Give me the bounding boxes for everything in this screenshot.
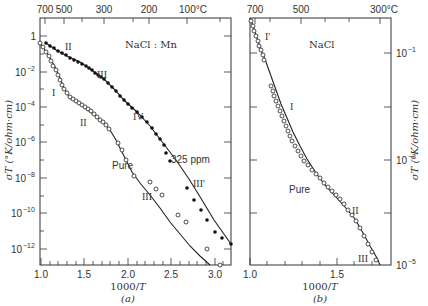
x-tick-label: 1.5	[330, 269, 344, 280]
panel-b-x-labels: 1.0 1.5	[243, 269, 344, 280]
panel-b-annotations: NaCl I′ I Pure II III	[265, 31, 368, 264]
x-tick-label: 1.5	[77, 269, 91, 280]
y-tick-exp: −2	[27, 65, 35, 72]
y-tick-label: 1	[30, 31, 36, 42]
y-tick-exp: −12	[23, 242, 35, 249]
figure: 700 500 300 200 100°C	[0, 0, 428, 306]
top-tick-label: 500	[293, 4, 310, 15]
region-label: IV	[133, 111, 144, 122]
region-label: III	[358, 253, 368, 264]
panel-b-top-ticks	[255, 18, 380, 24]
y-tick-label: 10	[11, 208, 23, 219]
panel-b-x-ticks	[250, 258, 372, 265]
panel-a-annotations: NaCl : Mn II III IV 325 ppm III′ I II Pu…	[52, 39, 210, 202]
region-label: III′	[193, 178, 205, 189]
region-label: III	[142, 191, 152, 202]
panel-a-x-labels: 1.0 1.5 2.0 2.5 3.0	[34, 269, 222, 280]
region-label: I	[290, 101, 293, 112]
pure-label: Pure	[112, 160, 134, 171]
region-label: II	[352, 205, 359, 216]
region-label: I	[52, 87, 55, 98]
top-tick-label: 300	[96, 4, 113, 15]
panel-b-frame	[250, 18, 391, 265]
panel-a-frame	[40, 18, 231, 265]
panel-b: 700 500 300°C 10 −1 10 −3 10 −5 σT (°K/o…	[243, 4, 420, 304]
panel-a-caption: (a)	[121, 293, 135, 304]
top-tick-label: 700	[37, 4, 54, 15]
panel-a-title: NaCl : Mn	[125, 39, 178, 50]
panel-b-top-labels: 700 500 300°C	[247, 4, 398, 15]
top-tick-label: 700	[247, 4, 264, 15]
ppm-label: 325 ppm	[171, 154, 210, 165]
top-tick-label: 200	[141, 4, 158, 15]
region-label: III	[97, 69, 107, 80]
panel-a-y-ticks	[40, 36, 231, 249]
x-tick-label: 3.0	[208, 269, 222, 280]
y-tick-label: 10	[15, 67, 27, 78]
y-tick-label: 10	[15, 102, 27, 113]
doped-markers	[44, 41, 233, 246]
panel-b-y-axis-label: σT (°K/ohm·cm)	[409, 100, 420, 181]
y-tick-label: 10	[15, 173, 27, 184]
y-tick-label: 10	[396, 48, 408, 59]
x-tick-label: 2.0	[121, 269, 135, 280]
y-tick-label: 10	[396, 260, 408, 271]
y-tick-exp: −6	[27, 135, 35, 142]
top-tick-label: 100°C	[179, 4, 207, 15]
y-tick-exp: −1	[408, 46, 416, 53]
y-tick-exp: −10	[23, 206, 35, 213]
panel-a-y-labels: 1 10 −2 10 −4 10 −6 10 −8 10 −10 10 −12	[11, 31, 37, 255]
y-tick-exp: −5	[408, 258, 416, 265]
panel-b-caption: (b)	[313, 293, 327, 304]
panel-a-y-axis-label: σT (°K/ohm·cm)	[3, 100, 14, 181]
x-tick-label: 2.5	[164, 269, 178, 280]
region-label: I′	[265, 31, 271, 42]
panel-a-top-labels: 700 500 300 200 100°C	[37, 4, 207, 15]
panel-a: 700 500 300 200 100°C	[3, 4, 233, 304]
y-tick-label: 10	[396, 155, 408, 166]
doped-curve	[46, 43, 231, 244]
panel-b-title: NaCl	[309, 39, 335, 50]
x-tick-label: 1.0	[34, 269, 48, 280]
y-tick-exp: −4	[27, 100, 35, 107]
panel-a-x-axis-label: 1000/T	[110, 281, 147, 292]
panel-a-x-ticks	[41, 258, 223, 265]
region-label: II	[80, 117, 87, 128]
panel-b-x-axis-label: 1000/T	[302, 281, 339, 292]
x-tick-label: 1.0	[243, 269, 257, 280]
top-tick-label: 500	[56, 4, 73, 15]
panel-a-top-ticks	[45, 18, 220, 24]
y-tick-exp: −8	[27, 171, 35, 178]
y-tick-label: 10	[15, 137, 27, 148]
y-tick-label: 10	[11, 244, 23, 255]
top-tick-label: 300°C	[370, 4, 398, 15]
region-label: II	[65, 41, 72, 52]
pure-label: Pure	[289, 184, 311, 195]
